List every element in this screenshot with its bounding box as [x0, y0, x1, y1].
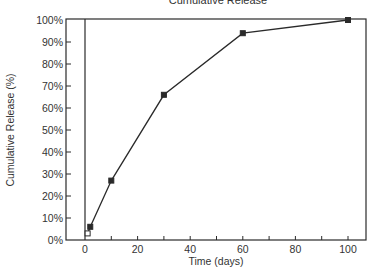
- y-tick-label: 30%: [42, 168, 63, 180]
- plot-frame: [66, 19, 366, 240]
- y-tick-label: 50%: [42, 124, 63, 136]
- y-tick-label: 10%: [42, 212, 63, 224]
- x-axis-ticks: 020406080100: [82, 236, 357, 255]
- y-tick-label: 40%: [42, 146, 63, 158]
- y-tick-label: 0%: [48, 234, 63, 246]
- x-tick-label: 100: [339, 243, 357, 255]
- data-point-marker: [85, 231, 90, 236]
- y-tick-label: 20%: [42, 190, 63, 202]
- y-tick-label: 80%: [42, 58, 63, 70]
- y-tick-label: 100%: [36, 14, 63, 26]
- y-tick-label: 90%: [42, 36, 63, 48]
- x-axis-label: Time (days): [188, 255, 243, 267]
- data-point-marker: [240, 31, 245, 36]
- chart-title: Cumulative Release: [169, 0, 267, 6]
- cumulative-release-chart: Cumulative Release 0%10%20%30%40%50%60%7…: [0, 0, 371, 280]
- y-tick-label: 60%: [42, 102, 63, 114]
- x-tick-label: 80: [290, 243, 302, 255]
- x-tick-label: 0: [82, 243, 88, 255]
- data-point-marker: [109, 178, 114, 183]
- x-tick-label: 20: [132, 243, 144, 255]
- x-tick-label: 40: [184, 243, 196, 255]
- data-point-marker: [88, 224, 93, 229]
- series-line: [88, 20, 348, 233]
- data-point-marker: [161, 92, 166, 97]
- data-series: [85, 18, 350, 236]
- y-axis-label: Cumulative Release (%): [4, 73, 16, 186]
- x-tick-label: 60: [237, 243, 249, 255]
- y-tick-label: 70%: [42, 80, 63, 92]
- data-point-marker: [346, 18, 351, 23]
